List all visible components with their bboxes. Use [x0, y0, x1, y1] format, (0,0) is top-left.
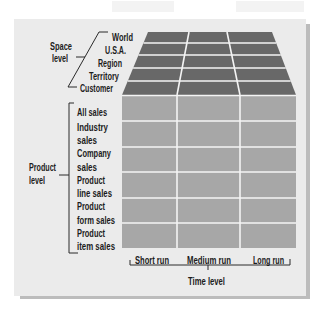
product-level-title: Product	[29, 161, 56, 173]
space-level-title: Space	[50, 40, 72, 52]
space-level-face	[122, 32, 296, 95]
product-item-line-sales: Product	[77, 174, 105, 186]
product-level-title: level	[29, 174, 45, 186]
product-item-form-sales: form sales	[77, 214, 115, 226]
product-item-company-sales: sales	[77, 161, 97, 173]
product-item-item-sales: item sales	[77, 240, 115, 252]
product-item-all-sales: All sales	[77, 106, 107, 118]
time-level-title: Time level	[188, 275, 225, 287]
space-item-world: World	[112, 31, 133, 43]
product-item-form-sales: Product	[77, 200, 105, 212]
bleed-through-artifact	[236, 1, 304, 12]
product-item-industry-sales: Industry	[77, 121, 109, 133]
product-item-industry-sales: sales	[77, 134, 97, 146]
forecast-levels-diagram: Space level World U.S.A. Region Territor…	[0, 0, 329, 310]
time-item-long-run: Long run	[253, 254, 284, 266]
space-level-title: level	[52, 52, 68, 64]
time-item-medium-run: Medium run	[187, 254, 231, 266]
space-item-territory: Territory	[89, 70, 120, 82]
product-item-item-sales: Product	[77, 227, 105, 239]
product-time-face	[122, 95, 296, 248]
space-item-region: Region	[98, 57, 122, 69]
space-item-customer: Customer	[80, 82, 113, 94]
product-item-line-sales: line sales	[77, 187, 112, 199]
bleed-through-artifact	[112, 1, 174, 12]
product-item-company-sales: Company	[77, 147, 112, 159]
time-item-short-run: Short run	[135, 254, 169, 266]
space-item-usa: U.S.A.	[105, 44, 126, 56]
